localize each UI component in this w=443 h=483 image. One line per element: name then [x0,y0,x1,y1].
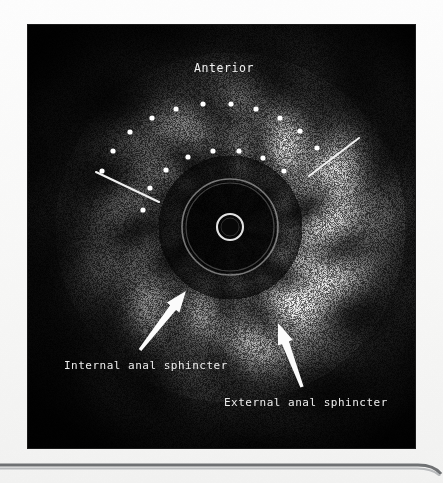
page-edge-line [0,462,443,476]
endoanal-ultrasound-image: Anterior Internal anal sphincter Externa… [28,25,415,448]
ultrasound-speckle-canvas [28,25,415,448]
scanned-page-background: Anterior Internal anal sphincter Externa… [0,0,443,483]
